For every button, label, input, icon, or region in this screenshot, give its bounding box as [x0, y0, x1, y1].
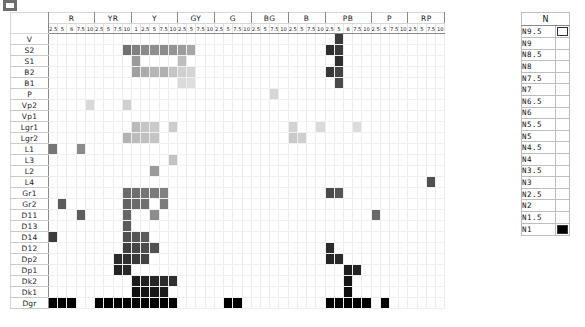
matrix-cell-l1-p7.5[interactable] [390, 144, 399, 155]
matrix-cell-vp2-y1[interactable] [131, 100, 140, 111]
matrix-cell-dgr-p10[interactable] [399, 298, 408, 309]
matrix-cell-gr2-p7.5[interactable] [390, 199, 399, 210]
matrix-cell-gr2-yr2.5[interactable] [95, 199, 104, 210]
matrix-cell-s1-pb5[interactable] [334, 56, 343, 67]
matrix-cell-d13-rp5[interactable] [417, 221, 426, 232]
matrix-cell-v-b10[interactable] [316, 34, 325, 45]
matrix-cell-l4-y1[interactable] [131, 177, 140, 188]
matrix-cell-vp2-rp10[interactable] [436, 100, 445, 111]
matrix-cell-v-pb7.5[interactable] [353, 34, 362, 45]
matrix-cell-b2-b7.5[interactable] [307, 67, 316, 78]
matrix-cell-d12-yr10[interactable] [122, 243, 131, 254]
matrix-cell-p-pb7.5[interactable] [353, 89, 362, 100]
matrix-cell-gr2-y10[interactable] [168, 199, 177, 210]
matrix-cell-lgr1-pb10[interactable] [362, 122, 371, 133]
matrix-cell-dk2-g2.5[interactable] [214, 276, 223, 287]
matrix-cell-d13-b10[interactable] [316, 221, 325, 232]
matrix-cell-s1-gy7.5[interactable] [196, 56, 205, 67]
matrix-cell-v-pb10[interactable] [362, 34, 371, 45]
matrix-cell-lgr2-y2.5[interactable] [141, 133, 150, 144]
matrix-cell-b2-g5[interactable] [224, 67, 233, 78]
matrix-cell-dp1-gy5[interactable] [187, 265, 196, 276]
matrix-cell-l2-r5[interactable] [58, 166, 67, 177]
matrix-cell-gr2-yr7.5[interactable] [113, 199, 122, 210]
matrix-cell-gr2-r10[interactable] [85, 199, 94, 210]
matrix-cell-lgr1-bg5[interactable] [261, 122, 270, 133]
matrix-cell-dp2-g2.5[interactable] [214, 254, 223, 265]
matrix-cell-vp2-rp2.5[interactable] [408, 100, 417, 111]
matrix-cell-dgr-g5[interactable] [224, 298, 233, 309]
matrix-cell-lgr1-p7.5[interactable] [390, 122, 399, 133]
matrix-cell-lgr2-r10[interactable] [85, 133, 94, 144]
matrix-cell-b2-p2.5[interactable] [371, 67, 380, 78]
matrix-cell-l4-yr7.5[interactable] [113, 177, 122, 188]
matrix-cell-d11-gy10[interactable] [205, 210, 214, 221]
matrix-cell-l2-rp2.5[interactable] [408, 166, 417, 177]
matrix-cell-b2-p10[interactable] [399, 67, 408, 78]
matrix-cell-lgr1-rp7.5[interactable] [426, 122, 435, 133]
matrix-cell-lgr2-rp5[interactable] [417, 133, 426, 144]
matrix-cell-vp1-rp2.5[interactable] [408, 111, 417, 122]
matrix-cell-p-bg5[interactable] [261, 89, 270, 100]
matrix-cell-l4-gy7.5[interactable] [196, 177, 205, 188]
matrix-cell-dp1-gy10[interactable] [205, 265, 214, 276]
matrix-cell-s2-yr10[interactable] [122, 45, 131, 56]
matrix-cell-dk1-r7.5[interactable] [76, 287, 85, 298]
matrix-cell-s1-gy10[interactable] [205, 56, 214, 67]
matrix-cell-d13-pb6[interactable] [343, 221, 352, 232]
matrix-cell-l2-g7.5[interactable] [233, 166, 242, 177]
matrix-cell-l1-rp10[interactable] [436, 144, 445, 155]
matrix-cell-l4-pb7.5[interactable] [353, 177, 362, 188]
matrix-cell-dk2-pb6[interactable] [343, 276, 352, 287]
matrix-cell-dp1-p7.5[interactable] [390, 265, 399, 276]
matrix-cell-dk1-gy5[interactable] [187, 287, 196, 298]
matrix-cell-lgr2-p2.5[interactable] [371, 133, 380, 144]
matrix-cell-l4-p10[interactable] [399, 177, 408, 188]
matrix-cell-d12-r5[interactable] [58, 243, 67, 254]
matrix-cell-gr2-y2.5[interactable] [141, 199, 150, 210]
matrix-cell-b2-yr5[interactable] [104, 67, 113, 78]
matrix-cell-dp1-bg2.5[interactable] [251, 265, 260, 276]
matrix-cell-p-gy5[interactable] [187, 89, 196, 100]
matrix-cell-b2-p7.5[interactable] [390, 67, 399, 78]
matrix-cell-gr1-gy7.5[interactable] [196, 188, 205, 199]
matrix-cell-gr1-pb2.5[interactable] [325, 188, 334, 199]
matrix-cell-b2-r5[interactable] [58, 67, 67, 78]
matrix-cell-gr1-gy5[interactable] [187, 188, 196, 199]
matrix-cell-dgr-pb10[interactable] [362, 298, 371, 309]
matrix-cell-l1-g2.5[interactable] [214, 144, 223, 155]
matrix-cell-dk2-pb7.5[interactable] [353, 276, 362, 287]
matrix-cell-l3-rp2.5[interactable] [408, 155, 417, 166]
matrix-cell-p-p2.5[interactable] [371, 89, 380, 100]
matrix-cell-v-bg2.5[interactable] [251, 34, 260, 45]
matrix-cell-gr2-p2.5[interactable] [371, 199, 380, 210]
matrix-cell-d12-r2.5[interactable] [49, 243, 58, 254]
matrix-cell-dk2-pb5[interactable] [334, 276, 343, 287]
matrix-cell-gr2-yr10[interactable] [122, 199, 131, 210]
matrix-cell-p-y1[interactable] [131, 89, 140, 100]
matrix-cell-gr2-bg2.5[interactable] [251, 199, 260, 210]
matrix-cell-p-yr2.5[interactable] [95, 89, 104, 100]
matrix-cell-p-gy7.5[interactable] [196, 89, 205, 100]
matrix-cell-dp1-gy7.5[interactable] [196, 265, 205, 276]
matrix-cell-lgr2-y10[interactable] [168, 133, 177, 144]
matrix-cell-vp1-y10[interactable] [168, 111, 177, 122]
matrix-cell-l2-yr2.5[interactable] [95, 166, 104, 177]
matrix-cell-s2-yr7.5[interactable] [113, 45, 122, 56]
matrix-cell-dp2-rp7.5[interactable] [426, 254, 435, 265]
matrix-cell-dp1-rp5[interactable] [417, 265, 426, 276]
matrix-cell-l1-b10[interactable] [316, 144, 325, 155]
matrix-cell-lgr1-g2.5[interactable] [214, 122, 223, 133]
matrix-cell-vp1-b10[interactable] [316, 111, 325, 122]
matrix-cell-d14-y5[interactable] [150, 232, 159, 243]
matrix-cell-v-r10[interactable] [85, 34, 94, 45]
matrix-cell-d14-g7.5[interactable] [233, 232, 242, 243]
matrix-cell-v-p10[interactable] [399, 34, 408, 45]
matrix-cell-dk1-gy10[interactable] [205, 287, 214, 298]
matrix-cell-d14-pb10[interactable] [362, 232, 371, 243]
matrix-cell-d13-rp2.5[interactable] [408, 221, 417, 232]
matrix-cell-b2-rp7.5[interactable] [426, 67, 435, 78]
legend-row[interactable]: N1.5 [522, 211, 570, 223]
matrix-cell-l4-b5[interactable] [297, 177, 306, 188]
matrix-cell-dp2-gy2.5[interactable] [178, 254, 187, 265]
